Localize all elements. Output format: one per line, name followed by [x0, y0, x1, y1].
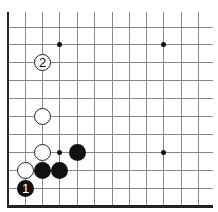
- grid-line-vertical: [198, 12, 199, 206]
- star-point-icon: [57, 42, 62, 47]
- grid-line-vertical: [129, 12, 130, 206]
- board-edge-bottom: [7, 205, 213, 208]
- grid-line-horizontal: [8, 98, 213, 99]
- white-stone: [34, 144, 51, 161]
- black-stone: [69, 144, 86, 161]
- star-point-icon: [57, 150, 62, 155]
- black-stone: [51, 162, 68, 179]
- grid-line-vertical: [77, 12, 78, 206]
- board-edge-left: [7, 12, 9, 208]
- white-stone: 2: [34, 54, 51, 71]
- grid-line-horizontal: [8, 134, 213, 135]
- grid-line-horizontal: [8, 27, 213, 28]
- go-board: 12: [0, 0, 218, 212]
- star-point-icon: [161, 42, 166, 47]
- white-stone: [17, 162, 34, 179]
- grid-line-horizontal: [8, 44, 213, 45]
- grid-line-horizontal: [8, 188, 213, 189]
- white-stone: [34, 108, 51, 125]
- grid-line-vertical: [146, 12, 147, 206]
- move-number: 1: [22, 182, 29, 195]
- grid-line-vertical: [94, 12, 95, 206]
- black-stone: 1: [17, 180, 34, 197]
- grid-line-vertical: [181, 12, 182, 206]
- grid-line-horizontal: [8, 80, 213, 81]
- black-stone: [34, 162, 51, 179]
- move-number: 2: [39, 56, 46, 69]
- star-point-icon: [161, 150, 166, 155]
- grid-line-vertical: [112, 12, 113, 206]
